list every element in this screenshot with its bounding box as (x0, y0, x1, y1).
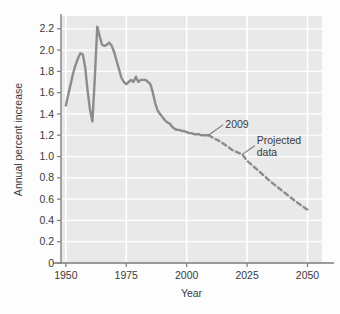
x-tick-label-2025: 2025 (235, 269, 259, 281)
y-tick-label-0.8: 0.8 (39, 171, 54, 183)
y-tick-label-1.4: 1.4 (39, 108, 54, 120)
line-chart: 00.20.40.60.81.01.21.41.61.82.02.2 19501… (0, 0, 340, 314)
y-tick-label-1.2: 1.2 (39, 129, 54, 141)
y-tick-label-1.8: 1.8 (39, 65, 54, 77)
x-tick-label-2000: 2000 (175, 269, 199, 281)
x-tick-label-1975: 1975 (115, 269, 139, 281)
y-tick-label-2.0: 2.0 (39, 44, 54, 56)
y-tick-label-0.2: 0.2 (39, 235, 54, 247)
y-tick-label-1.0: 1.0 (39, 150, 54, 162)
y-axis-title: Annual percent increase (12, 83, 24, 196)
x-tick-label-1950: 1950 (54, 269, 78, 281)
y-tick-label-1.6: 1.6 (39, 86, 54, 98)
annotation-projected-label-line1: Projected (257, 134, 302, 146)
y-tick-label-2.2: 2.2 (39, 22, 54, 34)
x-tick-label-2050: 2050 (296, 269, 320, 281)
x-axis-title: Year (181, 287, 203, 299)
annotation-2009-label: 2009 (225, 118, 249, 130)
y-tick-label-0: 0 (48, 257, 54, 269)
annotation-projected-label-line2: data (257, 146, 278, 158)
y-tick-label-0.6: 0.6 (39, 193, 54, 205)
y-tick-label-0.4: 0.4 (39, 214, 54, 226)
chart-figure: 00.20.40.60.81.01.21.41.61.82.02.2 19501… (0, 0, 340, 314)
